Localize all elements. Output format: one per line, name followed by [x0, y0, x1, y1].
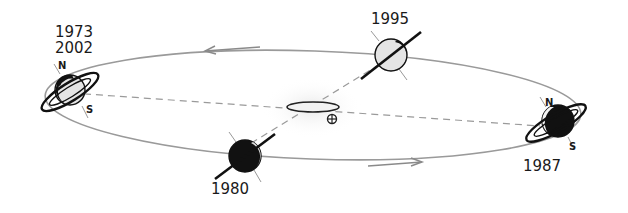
north-pole-label-right: N	[545, 97, 553, 108]
saturn-1995	[361, 31, 421, 80]
year-label-1980: 1980	[210, 181, 250, 197]
north-pole-label-left: N	[58, 60, 66, 71]
central-ring	[287, 102, 339, 112]
saturn-1987	[522, 97, 590, 149]
orbit-svg	[0, 0, 628, 213]
year-label-2002: 2002	[54, 40, 94, 56]
saturn-orbit-diagram: 1973 2002 1995 1987 1980 N S N S	[0, 0, 628, 213]
year-label-1995: 1995	[370, 11, 410, 27]
earth-icon	[328, 115, 337, 124]
south-pole-label-right: S	[569, 141, 576, 152]
south-pole-label-left: S	[86, 104, 93, 115]
year-label-1973: 1973	[54, 24, 94, 40]
year-label-1987: 1987	[522, 158, 562, 174]
